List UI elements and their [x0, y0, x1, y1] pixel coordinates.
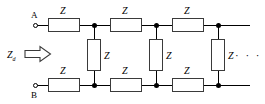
terminal-b-label: B [31, 91, 37, 100]
right-arrow-icon-svg [24, 45, 52, 63]
shunt-resistor-1-label: Z [104, 51, 110, 61]
wire-top-tail [218, 25, 250, 26]
terminal-a [33, 23, 38, 28]
input-impedance-label: Zd [7, 50, 16, 62]
series-resistor-top-2 [110, 18, 142, 32]
node-bottom-1 [92, 83, 97, 88]
right-arrow-icon [24, 45, 52, 63]
series-resistor-bottom-2-label: Z [122, 66, 128, 76]
series-resistor-top-3 [172, 18, 204, 32]
series-resistor-top-2-label: Z [122, 6, 128, 16]
series-resistor-bottom-1 [48, 78, 80, 92]
input-impedance-subscript: d [13, 56, 16, 62]
series-resistor-bottom-2 [110, 78, 142, 92]
series-resistor-top-1 [48, 18, 80, 32]
series-resistor-bottom-1-label: Z [60, 66, 66, 76]
shunt-resistor-3-label: Z [228, 51, 234, 61]
node-bottom-3 [216, 83, 221, 88]
series-resistor-bottom-3 [172, 78, 204, 92]
circuit-diagram: Z Z Z Z Z Z Z Z Z A B Zd · · [0, 0, 265, 104]
node-top-1 [92, 23, 97, 28]
series-resistor-top-1-label: Z [60, 6, 66, 16]
terminal-a-label: A [31, 11, 38, 20]
shunt-resistor-2-label: Z [166, 51, 172, 61]
shunt-resistor-2 [149, 39, 163, 71]
series-resistor-bottom-3-label: Z [184, 66, 190, 76]
shunt-resistor-1 [87, 39, 101, 71]
shunt-resistor-3 [211, 39, 225, 71]
node-top-3 [216, 23, 221, 28]
series-resistor-top-3-label: Z [184, 6, 190, 16]
node-bottom-2 [154, 83, 159, 88]
terminal-b [33, 83, 38, 88]
node-top-2 [154, 23, 159, 28]
wire-bottom-tail [218, 85, 250, 86]
continuation-ellipsis: · · · [235, 50, 262, 61]
